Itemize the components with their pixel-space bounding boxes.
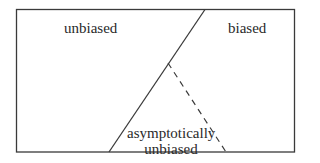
label-asymptotically-unbiased: asymptotically unbiased	[127, 126, 215, 157]
label-unbiased: unbiased	[64, 21, 117, 36]
label-biased: biased	[228, 21, 266, 36]
label-asymptotically-line1: asymptotically	[127, 126, 215, 141]
label-asymptotically-line2: unbiased	[127, 142, 215, 157]
